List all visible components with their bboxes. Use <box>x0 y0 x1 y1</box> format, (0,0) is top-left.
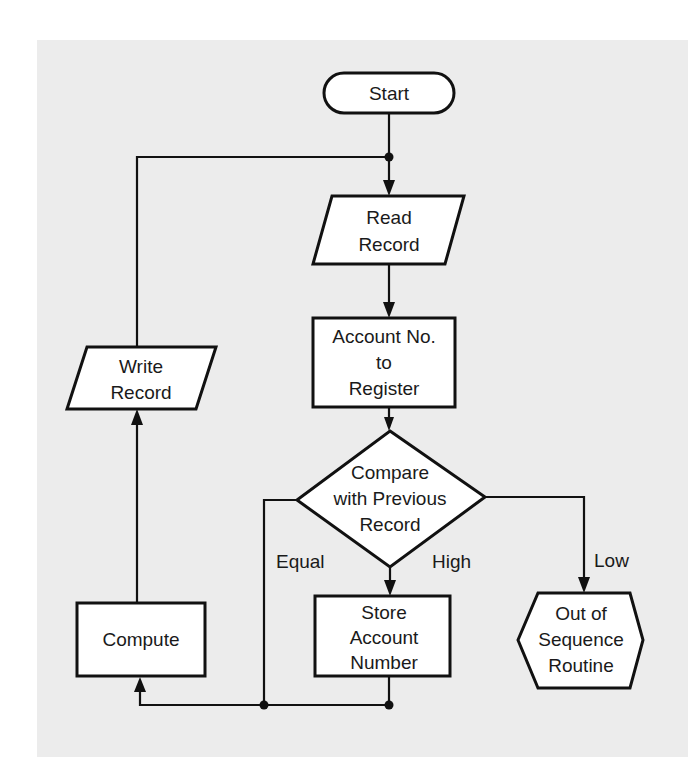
write-record-line-1: Write <box>119 356 163 377</box>
account-register-line-2: to <box>376 352 392 373</box>
compute-label: Compute <box>102 629 179 650</box>
arrow-to-read-record <box>383 180 395 196</box>
node-account-to-register[interactable]: Account No. to Register <box>313 318 455 407</box>
store-account-line-2: Account <box>350 627 419 648</box>
node-compute[interactable]: Compute <box>77 603 205 676</box>
edge-label-equal: Equal <box>276 551 325 572</box>
arrow-to-out-of-sequence <box>578 577 590 593</box>
out-of-sequence-line-1: Out of <box>555 603 607 624</box>
edge-label-low: Low <box>594 550 629 571</box>
arrow-to-compute <box>134 677 146 692</box>
compare-line-3: Record <box>359 514 420 535</box>
out-of-sequence-line-3: Routine <box>548 655 614 676</box>
edge-compare-low <box>485 497 584 580</box>
account-register-line-1: Account No. <box>332 326 436 347</box>
compare-line-2: with Previous <box>333 488 447 509</box>
arrow-to-store <box>384 580 396 596</box>
arrow-to-write-record <box>131 409 143 425</box>
node-write-record[interactable]: Write Record <box>67 347 216 409</box>
store-account-line-1: Store <box>361 602 406 623</box>
start-label: Start <box>369 83 410 104</box>
store-account-line-3: Number <box>350 652 418 673</box>
read-record-line-1: Read <box>366 207 411 228</box>
edge-label-high: High <box>432 551 471 572</box>
edge-compare-equal <box>264 500 297 705</box>
node-start[interactable]: Start <box>324 73 454 113</box>
node-out-of-sequence[interactable]: Out of Sequence Routine <box>518 593 643 688</box>
junction-dot-equal <box>260 701 269 710</box>
flowchart: Start Read Record Account No. to Registe… <box>0 0 700 783</box>
junction-dot-top <box>385 153 394 162</box>
arrow-to-compare <box>384 417 394 431</box>
node-store-account[interactable]: Store Account Number <box>315 596 450 676</box>
junction-dot-store <box>385 701 394 710</box>
node-compare[interactable]: Compare with Previous Record <box>297 431 485 567</box>
account-register-line-3: Register <box>349 378 420 399</box>
arrow-to-account <box>383 302 395 318</box>
write-record-line-2: Record <box>110 382 171 403</box>
node-read-record[interactable]: Read Record <box>313 196 464 264</box>
out-of-sequence-line-2: Sequence <box>538 629 624 650</box>
read-record-line-2: Record <box>358 234 419 255</box>
compare-line-1: Compare <box>351 462 429 483</box>
